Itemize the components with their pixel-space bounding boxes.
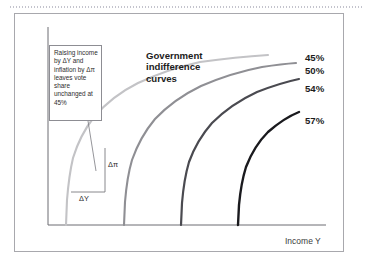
curve-label-50: 50%: [305, 65, 324, 76]
delta-income-label: ΔY: [79, 194, 89, 203]
x-axis-label: Income Y: [285, 236, 321, 246]
callout-leader-line: [88, 121, 96, 171]
y-axis-label: Inflation π: [0, 0, 8, 36]
delta-inflation-label: Δπ: [108, 160, 118, 169]
callout-box: Raising income by ΔY and inflation by Δπ…: [49, 45, 102, 121]
page-top-dotted-rule: [10, 6, 362, 8]
callout-text: Raising income by ΔY and inflation by Δπ…: [54, 49, 98, 106]
curve-label-54: 54%: [305, 83, 324, 94]
curve-label-57: 57%: [305, 115, 324, 126]
indifference-curve-57: [238, 112, 299, 225]
chart-title: Government indifference curves: [146, 50, 203, 84]
curve-label-45: 45%: [305, 52, 324, 63]
figure-page: Inflation π Income Y Raising income by Δ…: [0, 0, 370, 272]
